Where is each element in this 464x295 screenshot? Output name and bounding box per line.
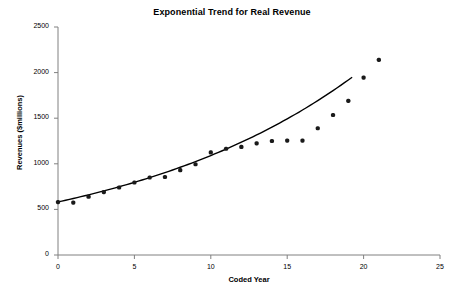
axis-lines <box>58 27 440 255</box>
y-axis-tick-label: 1000 <box>19 159 49 166</box>
data-point <box>71 200 75 204</box>
y-axis-tick-label: 2500 <box>19 22 49 29</box>
data-point <box>377 58 381 62</box>
data-point <box>300 138 304 142</box>
data-point <box>193 162 197 166</box>
data-point <box>86 195 90 199</box>
data-point <box>362 76 366 80</box>
x-axis-tick-label: 20 <box>352 263 376 270</box>
plot-area <box>0 0 464 295</box>
y-axis-tick-label: 0 <box>19 250 49 257</box>
chart-container: Exponential Trend for Real Revenue Reven… <box>0 0 464 295</box>
data-point <box>270 139 274 143</box>
data-point <box>239 145 243 149</box>
data-point <box>163 175 167 179</box>
data-point-series <box>56 58 381 205</box>
y-axis-ticks <box>54 27 58 255</box>
y-axis-tick-label: 1500 <box>19 113 49 120</box>
y-axis-tick-label: 500 <box>19 204 49 211</box>
data-point <box>285 138 289 142</box>
y-axis-tick-label: 2000 <box>19 68 49 75</box>
x-axis-tick-label: 25 <box>428 263 452 270</box>
data-point <box>316 126 320 130</box>
data-point <box>148 175 152 179</box>
data-point <box>102 190 106 194</box>
data-point <box>209 150 213 154</box>
x-axis-tick-label: 15 <box>275 263 299 270</box>
data-point <box>132 180 136 184</box>
data-point <box>346 99 350 103</box>
data-point <box>178 168 182 172</box>
data-point <box>56 200 60 204</box>
x-axis-tick-label: 10 <box>199 263 223 270</box>
x-axis-tick-label: 0 <box>46 263 70 270</box>
x-axis-tick-label: 5 <box>122 263 146 270</box>
exponential-trendline <box>58 77 352 202</box>
data-point <box>117 185 121 189</box>
data-point <box>331 113 335 117</box>
data-point <box>224 147 228 151</box>
x-axis-ticks <box>58 255 440 259</box>
data-point <box>255 141 259 145</box>
